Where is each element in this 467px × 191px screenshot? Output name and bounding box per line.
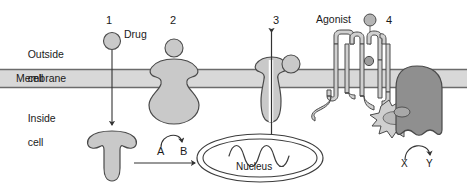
inside-cell-label: Inside cell xyxy=(16,100,56,160)
substrate-x-label: X xyxy=(401,158,408,170)
diagram-canvas xyxy=(0,0,467,191)
target-number-2: 2 xyxy=(170,14,176,27)
agonist-ligand-sphere-icon xyxy=(364,14,376,26)
channel-ligand-sphere-icon xyxy=(282,55,300,73)
agonist-binding-pocket xyxy=(364,56,373,65)
ligand-sphere-icon xyxy=(165,39,183,57)
target-number-3: 3 xyxy=(273,14,279,27)
target-2-enzyme-linked-receptor-group xyxy=(149,39,199,147)
product-y-label: Y xyxy=(426,158,433,170)
membrane-label: Membrane xyxy=(16,72,66,84)
nucleus-label: Nucleus xyxy=(236,161,272,173)
outside-cell-line1: Outside xyxy=(28,48,64,60)
inside-cell-line1: Inside xyxy=(28,112,56,124)
drug-ligand-sphere-icon xyxy=(104,33,121,50)
effector-enzyme-icon xyxy=(396,66,442,135)
target-number-4: 4 xyxy=(386,14,392,27)
target-number-1: 1 xyxy=(106,14,112,27)
substrate-a-label: A xyxy=(157,145,164,158)
product-b-label: B xyxy=(180,145,187,158)
nucleus-group xyxy=(197,134,323,182)
effector-active-site xyxy=(394,107,410,117)
inside-cell-line2: cell xyxy=(28,136,44,148)
outside-cell-label: Outside cell xyxy=(16,36,64,96)
pharmacology-drug-targets-diagram: Outside cell Membrane Inside cell 1 2 3 … xyxy=(0,0,467,191)
enzyme-linked-receptor-icon xyxy=(149,59,199,124)
agonist-label: Agonist xyxy=(316,13,351,25)
drug-label: Drug xyxy=(124,28,147,40)
nuclear-receptor-icon xyxy=(88,131,137,181)
